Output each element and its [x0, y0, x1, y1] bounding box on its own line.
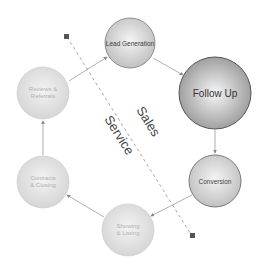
node-label-lead: Lead Generation — [106, 40, 155, 47]
divider-end-square-icon — [190, 233, 195, 238]
arrow-reviews-to-lead — [69, 57, 107, 81]
node-label-contracts-line1: Contracts — [30, 175, 56, 181]
node-contracts-closing: Contracts & Closing — [17, 156, 69, 208]
node-label-reviews-line1: Reviews & — [29, 86, 57, 92]
node-conversion: Conversion — [189, 155, 241, 207]
sales-service-cycle-diagram: Lead Generation Follow Up Conversion Sho… — [0, 0, 265, 268]
service-side-label: Service — [101, 113, 137, 158]
node-label-contracts-line2: & Closing — [30, 182, 56, 188]
node-label-reviews-line2: Referrals — [31, 93, 55, 99]
node-label-conversion: Conversion — [199, 178, 232, 185]
arrow-lead-to-follow — [153, 58, 183, 75]
node-label-showing-line2: & Listing — [116, 230, 139, 236]
node-showing-listing: Showing & Listing — [102, 204, 154, 256]
node-label-showing-line1: Showing — [116, 223, 139, 229]
node-lead-generation: Lead Generation — [105, 18, 155, 68]
node-label-follow: Follow Up — [193, 88, 238, 99]
arrow-showing-to-contracts — [67, 195, 104, 217]
arrow-conversion-to-showing — [151, 195, 192, 216]
node-reviews-referrals: Reviews & Referrals — [17, 67, 69, 119]
node-follow-up: Follow Up — [179, 57, 251, 129]
sales-side-label: Sales — [133, 104, 163, 140]
divider-start-square-icon — [64, 34, 69, 39]
